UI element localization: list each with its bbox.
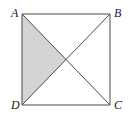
vertex-label-b: B [114,7,121,19]
vertex-label-d: D [11,99,20,111]
vertex-label-a: A [11,7,18,19]
vertex-label-c: C [114,99,122,111]
shaded-triangle-region [22,14,66,105]
geometry-figure: A B C D [0,0,132,119]
